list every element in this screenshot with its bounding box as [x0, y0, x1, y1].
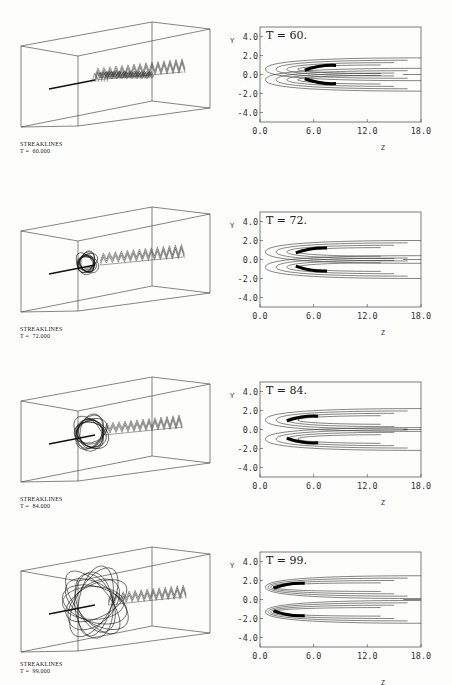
svg-text:-4.0: -4.0: [238, 108, 258, 118]
caption-title: STREAKLINES: [20, 496, 63, 503]
svg-text:0.0: 0.0: [243, 255, 258, 265]
svg-text:Y: Y: [230, 392, 235, 400]
svg-text:-2.0: -2.0: [238, 274, 258, 284]
contour-plot: 4.02.00.0-2.0-4.00.06.012.018.0YZT = 60.: [226, 0, 452, 170]
svg-text:4.0: 4.0: [243, 387, 258, 397]
svg-text:-4.0: -4.0: [238, 293, 258, 303]
svg-text:Z: Z: [381, 144, 385, 152]
svg-text:T = 60.: T = 60.: [266, 29, 307, 42]
caption-title: STREAKLINES: [20, 326, 63, 333]
svg-text:Z: Z: [381, 329, 385, 337]
svg-text:Z: Z: [381, 679, 385, 685]
svg-text:6.0: 6.0: [306, 311, 321, 321]
svg-text:0.0: 0.0: [243, 70, 258, 80]
svg-text:0.0: 0.0: [243, 425, 258, 435]
svg-text:-4.0: -4.0: [238, 463, 258, 473]
svg-text:18.0: 18.0: [411, 481, 431, 491]
svg-text:12.0: 12.0: [357, 651, 377, 661]
svg-text:0.0: 0.0: [252, 311, 267, 321]
figure-panel: STREAKLINEST = 84.0004.02.00.0-2.0-4.00.…: [0, 355, 452, 525]
svg-text:4.0: 4.0: [243, 217, 258, 227]
svg-text:-2.0: -2.0: [238, 89, 258, 99]
svg-text:6.0: 6.0: [306, 481, 321, 491]
streakline-caption: STREAKLINEST = 84.000: [20, 496, 63, 510]
caption-time: T = 72.000: [20, 333, 63, 340]
svg-text:Y: Y: [230, 37, 235, 45]
caption-title: STREAKLINES: [20, 661, 63, 668]
contour-plot: 4.02.00.0-2.0-4.00.06.012.018.0YZT = 84.: [226, 355, 452, 525]
svg-text:12.0: 12.0: [357, 311, 377, 321]
streakline-3d-plot: [0, 185, 230, 335]
svg-text:18.0: 18.0: [411, 311, 431, 321]
caption-time: T = 84.000: [20, 503, 63, 510]
svg-text:T = 99.: T = 99.: [266, 554, 307, 567]
figure-panel: STREAKLINEST = 72.0004.02.00.0-2.0-4.00.…: [0, 185, 452, 355]
streakline-3d-plot: [0, 525, 230, 675]
svg-text:T = 72.: T = 72.: [266, 214, 307, 227]
svg-text:0.0: 0.0: [252, 651, 267, 661]
svg-text:2.0: 2.0: [243, 236, 258, 246]
streakline-caption: STREAKLINEST = 99.000: [20, 661, 63, 675]
svg-text:2.0: 2.0: [243, 51, 258, 61]
caption-time: T = 60.000: [20, 148, 63, 155]
svg-text:2.0: 2.0: [243, 576, 258, 586]
streakline-3d-plot: [0, 355, 230, 505]
figure-panel: STREAKLINEST = 60.0004.02.00.0-2.0-4.00.…: [0, 0, 452, 170]
caption-time: T = 99.000: [20, 668, 63, 675]
svg-text:18.0: 18.0: [411, 651, 431, 661]
caption-title: STREAKLINES: [20, 141, 63, 148]
svg-text:6.0: 6.0: [306, 126, 321, 136]
svg-text:T = 84.: T = 84.: [266, 384, 307, 397]
svg-text:0.0: 0.0: [252, 126, 267, 136]
svg-text:6.0: 6.0: [306, 651, 321, 661]
svg-text:0.0: 0.0: [243, 595, 258, 605]
svg-text:-2.0: -2.0: [238, 614, 258, 624]
svg-text:2.0: 2.0: [243, 406, 258, 416]
streakline-caption: STREAKLINEST = 60.000: [20, 141, 63, 155]
svg-text:4.0: 4.0: [243, 557, 258, 567]
contour-plot: 4.02.00.0-2.0-4.00.06.012.018.0YZT = 72.: [226, 185, 452, 355]
svg-text:18.0: 18.0: [411, 126, 431, 136]
svg-text:4.0: 4.0: [243, 32, 258, 42]
svg-text:12.0: 12.0: [357, 481, 377, 491]
svg-text:-2.0: -2.0: [238, 444, 258, 454]
streakline-3d-plot: [0, 0, 230, 150]
svg-text:Y: Y: [230, 222, 235, 230]
svg-text:Z: Z: [381, 499, 385, 507]
streakline-caption: STREAKLINEST = 72.000: [20, 326, 63, 340]
svg-text:Y: Y: [230, 562, 235, 570]
contour-plot: 4.02.00.0-2.0-4.00.06.012.018.0YZT = 99.: [226, 525, 452, 685]
svg-text:0.0: 0.0: [252, 481, 267, 491]
svg-text:-4.0: -4.0: [238, 633, 258, 643]
figure-panel: STREAKLINEST = 99.0004.02.00.0-2.0-4.00.…: [0, 525, 452, 685]
svg-text:12.0: 12.0: [357, 126, 377, 136]
